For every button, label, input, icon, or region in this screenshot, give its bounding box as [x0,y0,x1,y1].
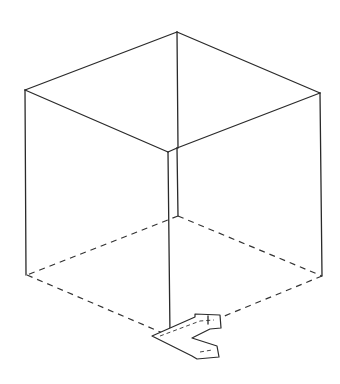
top-edge-front-right [177,93,320,148]
vertical-edge-back-lower [177,148,178,216]
top-edge-back-right [177,32,320,93]
top-edge-front-left [25,90,168,152]
cube-top-face [25,32,320,152]
chevron-arrow-icon [152,314,221,359]
vertical-edge-right [320,93,322,276]
vertical-edge-back-upper [177,32,178,148]
vertical-edge-front [168,152,170,336]
bottom-edge-front-right [222,276,322,317]
cube-bottom-face [27,216,322,334]
top-edge-back-left [25,32,177,90]
diagram-canvas [0,0,340,384]
cube-diagram [0,0,340,384]
bottom-edge-back-right [178,216,322,276]
cube-vertical-edges [25,32,322,336]
top-front-corner-joint [168,148,177,152]
vertical-edge-left [25,90,26,275]
bottom-edge-front-left [27,275,165,334]
bottom-edge-back-left [27,216,178,275]
